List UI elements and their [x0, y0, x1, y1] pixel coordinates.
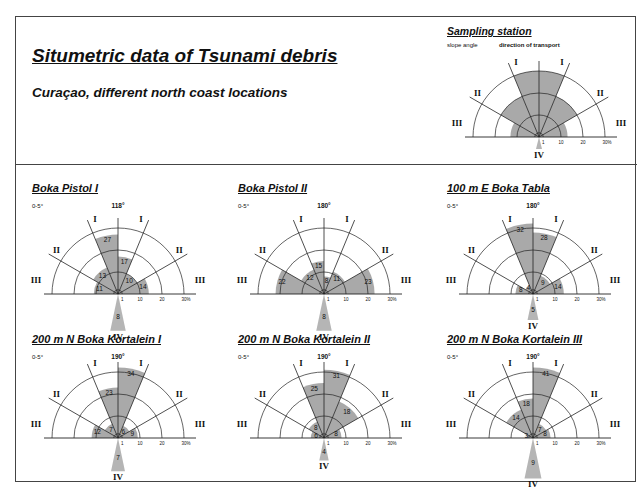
sector-label-iv: IV — [534, 150, 545, 160]
rose-diagram: 1102030%IIIIIIIIIIIIIV1492832485 — [447, 182, 637, 327]
sector-iv-value: 5 — [531, 306, 535, 313]
scale-label: 20 — [574, 297, 580, 302]
figure-subtitle: Curaçao, different north coast locations — [32, 85, 288, 100]
sector-value: 41 — [542, 370, 550, 377]
sector-value: 32 — [517, 226, 525, 233]
sector-label-ii: II — [591, 389, 599, 399]
sector-label-iii: III — [237, 275, 248, 285]
sector-iv-value: 8 — [322, 313, 326, 320]
sector-value: 34 — [127, 370, 135, 377]
scale-label: 10 — [552, 297, 558, 302]
sector-value: 25 — [311, 385, 319, 392]
rose-geometry: 1102030%IIIIIIIIIIIIIV — [452, 57, 627, 160]
sector-value: 12 — [306, 274, 314, 281]
scale-label: 30% — [596, 441, 605, 446]
sector-label-i: I — [508, 214, 512, 224]
sector-value: 8 — [314, 424, 318, 431]
rose-diagram: 1102030%IIIIIIIIIIIIIV8741181439 — [447, 333, 637, 483]
sector-value: 6 — [314, 432, 318, 439]
sector-value: 14 — [139, 283, 147, 290]
sector-label-i: I — [560, 57, 564, 67]
sector-label-iii: III — [31, 275, 42, 285]
rose-panel-100m-e-boka-tabla: 100 m E Boka Tabla 0-5° 180° 1102030%III… — [447, 182, 637, 327]
sector-value: 7 — [109, 426, 113, 433]
scale-label: 30% — [181, 441, 190, 446]
sector-value: 22 — [278, 278, 286, 285]
sector-iv-value: 9 — [531, 459, 535, 466]
sector-label-iii: III — [446, 275, 457, 285]
rose-geometry: 1102030%IIIIIIIIIIIIIV1492832485 — [446, 214, 621, 331]
sector-label-ii: II — [468, 245, 476, 255]
sector-label-ii: II — [259, 389, 267, 399]
sector-iv-value: 7 — [116, 454, 120, 461]
sector-label-ii: II — [597, 88, 605, 98]
sector-value: 8 — [543, 430, 547, 437]
sector-label-ii: II — [53, 245, 61, 255]
sector-value: 11 — [333, 275, 340, 282]
rose-geometry: 1102030%IIIIIIIIIIIIIV8183125864 — [237, 358, 412, 471]
sector-label-ii: II — [382, 245, 390, 255]
scale-label: 30% — [387, 441, 396, 446]
sector-label-i: I — [514, 57, 518, 67]
sector-value: 14 — [554, 283, 562, 290]
scale-label: 20 — [580, 140, 586, 145]
sector-value: 6 — [122, 428, 126, 435]
scale-label: 10 — [137, 297, 143, 302]
scale-label: 10 — [343, 297, 349, 302]
rose-diagram: 1102030%IIIIIIIIIIIIIV9634237127 — [32, 333, 222, 483]
figure-title: Situmetric data of Tsunami debris — [32, 45, 337, 67]
sector-label-iii: III — [401, 419, 412, 429]
sector-value: 7 — [538, 426, 542, 433]
scale-label: 1 — [536, 441, 539, 446]
sector-label-iii: III — [195, 419, 206, 429]
sector-label-i: I — [345, 214, 349, 224]
sector-value: 9 — [130, 430, 134, 437]
sector-value: 23 — [105, 389, 113, 396]
scale-label: 20 — [365, 441, 371, 446]
scale-label: 20 — [574, 441, 580, 446]
rose-panel-kortalein-i: 200 m N Boka Kortalein I 0-5° 190° 11020… — [32, 333, 222, 483]
sector-value: 8 — [325, 277, 329, 284]
scale-label: 30% — [387, 297, 396, 302]
sector-value: 18 — [523, 400, 531, 407]
sector-value: 13 — [99, 272, 107, 279]
scale-label: 1 — [542, 140, 545, 145]
scale-label: 10 — [552, 441, 558, 446]
sector-label-iv: IV — [528, 321, 539, 331]
sector-label-iii: III — [452, 118, 463, 128]
sector-label-iii: III — [237, 419, 248, 429]
sector-value: 9 — [541, 279, 545, 286]
legend-rose-diagram: 1102030%IIIIIIIIIIIIIV — [447, 25, 632, 165]
sector-value: 3 — [524, 432, 528, 439]
scale-label: 20 — [365, 297, 371, 302]
rose-geometry: 1102030%IIIIIIIIIIIIIV231181512228 — [237, 214, 412, 342]
rose-panel-kortalein-iii: 200 m N Boka Kortalein III 0-5° 190° 110… — [447, 333, 637, 483]
sector-value: 23 — [364, 278, 372, 285]
sector-label-iv: IV — [319, 461, 330, 471]
sector-value: 15 — [315, 262, 323, 269]
sector-label-i: I — [93, 358, 97, 368]
sector-label-i: I — [554, 214, 558, 224]
sector-label-i: I — [299, 214, 303, 224]
sector-value: 8 — [334, 430, 338, 437]
sector-label-ii: II — [468, 389, 476, 399]
scale-label: 30% — [181, 297, 190, 302]
sector-label-iii: III — [610, 419, 621, 429]
sector-label-i: I — [345, 358, 349, 368]
sector-label-ii: II — [176, 389, 184, 399]
sector-label-i: I — [93, 214, 97, 224]
sector-label-iii: III — [401, 275, 412, 285]
sampling-station-legend: Sampling station slope angle direction o… — [447, 25, 632, 165]
sector-label-i: I — [139, 358, 143, 368]
scale-label: 1 — [121, 441, 124, 446]
rose-diagram: 1102030%IIIIIIIIIIIIIV1410172713118 — [32, 182, 222, 327]
sector-value: 31 — [333, 372, 341, 379]
sector-label-ii: II — [474, 88, 482, 98]
scale-label: 1 — [327, 441, 330, 446]
rose-diagram: 1102030%IIIIIIIIIIIIIV231181512228 — [238, 182, 428, 327]
sector-label-ii: II — [591, 245, 599, 255]
sector-label-iii: III — [616, 118, 627, 128]
scale-label: 1 — [327, 297, 330, 302]
sector-value: 10 — [126, 277, 134, 284]
sector-iv-value: 8 — [116, 313, 120, 320]
